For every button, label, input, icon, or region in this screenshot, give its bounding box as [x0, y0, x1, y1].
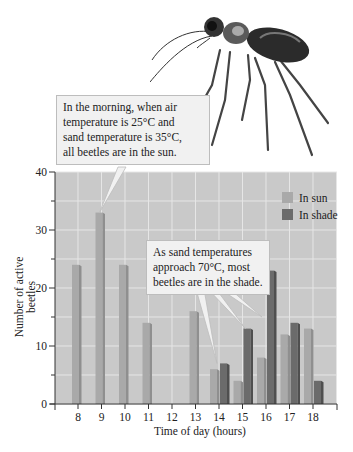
x-tick-label: 14: [213, 411, 225, 423]
bar-sun-side: [311, 329, 314, 404]
x-tick-label: 16: [260, 411, 272, 423]
bar-sun-side: [288, 334, 291, 404]
x-tick-label: 17: [284, 411, 296, 423]
bar-shade-side: [298, 323, 301, 404]
x-tick-label: 18: [307, 411, 319, 423]
annotation-line: sand temperature is 35°C,: [63, 130, 203, 145]
legend-item-sun: In sun: [282, 189, 338, 206]
bar-sun-side: [103, 213, 106, 404]
bar-sun-side: [79, 265, 82, 404]
bar-sun-side: [126, 265, 129, 404]
bar-sun: [304, 329, 311, 404]
y-tick-label: 10: [36, 340, 48, 352]
x-tick-label: 13: [190, 411, 202, 423]
x-tick-label: 9: [99, 411, 105, 423]
y-tick-label: 30: [36, 224, 48, 236]
bar-sun: [234, 381, 241, 404]
sun-swatch: [282, 192, 293, 203]
bar-sun: [119, 265, 126, 404]
bar-sun-side: [241, 381, 244, 404]
bar-shade: [314, 381, 321, 404]
bar-shade-side: [227, 363, 230, 404]
bar-sun: [257, 358, 264, 404]
annotation-line: all beetles are in the sun.: [63, 145, 203, 160]
y-tick-label: 0: [41, 398, 47, 410]
x-tick-label: 15: [237, 411, 249, 423]
bar-sun: [143, 323, 150, 404]
chart-legend: In sun In shade: [282, 189, 338, 223]
x-tick-label: 10: [119, 411, 131, 423]
annotation-line: As sand temperatures: [153, 245, 263, 260]
annotation-line: beetles are in the shade.: [153, 275, 263, 290]
annotation-line: temperature is 25°C and: [63, 115, 203, 130]
y-axis-label: Number of active beetles: [13, 242, 37, 352]
bar-shade-side: [251, 329, 254, 404]
x-tick-label: 12: [166, 411, 178, 423]
afternoon-annotation: As sand temperatures approach 70°C, most…: [146, 240, 270, 295]
bar-shade: [244, 329, 251, 404]
bar-sun-side: [217, 369, 220, 404]
x-axis-label: Time of day (hours): [140, 425, 260, 437]
bar-shade-side: [321, 381, 324, 404]
y-tick-label: 20: [36, 282, 48, 294]
morning-annotation: In the morning, when air temperature is …: [56, 95, 210, 165]
shade-swatch: [282, 209, 293, 220]
bar-sun: [281, 334, 288, 404]
bar-sun: [190, 311, 197, 404]
bar-sun: [96, 213, 103, 404]
bar-sun-side: [150, 323, 153, 404]
annotation-line: In the morning, when air: [63, 100, 203, 115]
y-tick-label: 40: [36, 166, 48, 178]
legend-item-shade: In shade: [282, 206, 338, 223]
bar-sun-side: [264, 358, 267, 404]
x-tick-label: 8: [75, 411, 81, 423]
bar-shade: [220, 363, 227, 404]
x-tick-label: 11: [143, 411, 154, 423]
bar-sun-side: [197, 311, 200, 404]
bar-shade: [291, 323, 298, 404]
bar-sun: [210, 369, 217, 404]
annotation-line: approach 70°C, most: [153, 260, 263, 275]
bar-sun: [72, 265, 79, 404]
bar-shade-side: [274, 271, 277, 404]
legend-label: In shade: [299, 209, 338, 221]
legend-label: In sun: [299, 192, 327, 204]
